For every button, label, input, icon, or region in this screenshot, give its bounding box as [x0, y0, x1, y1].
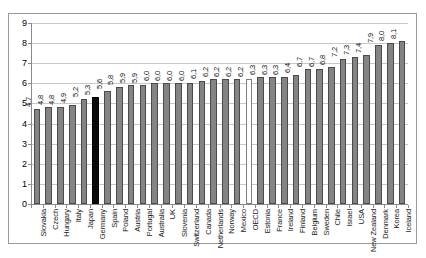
x-tick-label: Poland — [122, 209, 130, 232]
x-tick-mark — [149, 205, 150, 208]
bar[interactable] — [187, 83, 194, 204]
bar-slot: 6,4 — [293, 23, 300, 204]
x-label-slot: USA — [352, 209, 359, 210]
x-label-slot: Sweden — [316, 209, 323, 210]
x-label-slot: Israel — [340, 209, 347, 210]
bar-value-label: 6,2 — [225, 67, 233, 77]
x-tick-mark — [243, 205, 244, 208]
chart-frame: 0123456789 4,74,84,84,95,25,35,65,85,95,… — [8, 13, 417, 244]
y-axis: 0123456789 — [9, 14, 31, 205]
x-tick-label: Austria — [134, 209, 142, 232]
bar-value-label: 4,8 — [48, 95, 56, 105]
x-tick-label: Finland — [299, 209, 307, 233]
bar[interactable] — [210, 79, 217, 204]
bar[interactable] — [269, 77, 276, 204]
x-tick-mark — [302, 205, 303, 208]
x-tick-label: Sweden — [323, 209, 331, 236]
bar[interactable] — [57, 107, 64, 204]
x-tick-mark — [326, 205, 327, 208]
bar[interactable] — [151, 83, 158, 204]
x-label-slot: Portugal — [140, 209, 147, 210]
x-tick-label: Portugal — [146, 209, 154, 236]
bar[interactable] — [363, 55, 370, 204]
x-tick-label: New Zealand — [370, 209, 378, 252]
bar-value-label: 6,0 — [154, 71, 162, 81]
x-tick-label: Italy — [75, 209, 83, 222]
bar-slot: 8,1 — [399, 23, 406, 204]
x-tick-mark — [78, 205, 79, 208]
x-label-slot: Australia — [151, 209, 158, 210]
bar[interactable] — [399, 41, 406, 204]
bar-value-label: 7,9 — [367, 33, 375, 43]
bar[interactable] — [340, 59, 347, 204]
x-tick-mark — [31, 205, 32, 208]
bar[interactable] — [45, 107, 52, 204]
bar[interactable] — [140, 85, 147, 204]
bar[interactable] — [316, 69, 323, 204]
bar[interactable] — [104, 91, 111, 204]
bar[interactable] — [222, 79, 229, 204]
bar[interactable] — [375, 45, 382, 204]
y-tick-label: 3 — [22, 139, 27, 148]
bar[interactable] — [246, 79, 253, 204]
x-tick-mark — [290, 205, 291, 208]
bar-slot: 6,7 — [305, 23, 312, 204]
x-tick-mark — [208, 205, 209, 208]
bar-value-label: 7,4 — [355, 43, 363, 53]
bar-value-label: 6,7 — [308, 57, 316, 67]
bar-value-label: 4,8 — [37, 95, 45, 105]
y-tick-label: 7 — [22, 59, 27, 68]
bar[interactable] — [328, 67, 335, 204]
y-tick-label: 9 — [22, 19, 27, 28]
x-tick-label: Spain — [111, 209, 119, 228]
bar-slot: 6,0 — [163, 23, 170, 204]
y-tick-label: 8 — [22, 39, 27, 48]
x-tick-label: Canada — [205, 209, 213, 235]
bar-slot: 7,4 — [363, 23, 370, 204]
x-tick-label: Hungary — [63, 209, 71, 237]
bar[interactable] — [92, 97, 99, 204]
bar[interactable] — [81, 99, 88, 204]
bar[interactable] — [305, 69, 312, 204]
x-tick-label: Denmark — [382, 209, 390, 239]
x-tick-mark — [314, 205, 315, 208]
x-tick-label: Slovenia — [181, 209, 189, 237]
bar[interactable] — [234, 79, 241, 204]
bar-slot: 5,3 — [92, 23, 99, 204]
x-tick-mark — [66, 205, 67, 208]
bar[interactable] — [352, 57, 359, 204]
x-tick-mark — [278, 205, 279, 208]
x-tick-label: Netherlands — [217, 209, 225, 248]
bar-value-label: 4,9 — [60, 93, 68, 103]
bar-value-label: 5,9 — [131, 73, 139, 83]
bar[interactable] — [116, 87, 123, 204]
x-label-slot: Mexico — [234, 209, 241, 210]
bar-slot: 6,2 — [210, 23, 217, 204]
bar[interactable] — [163, 83, 170, 204]
bar-slot: 4,8 — [57, 23, 64, 204]
bar[interactable] — [387, 43, 394, 204]
bar[interactable] — [69, 105, 76, 204]
bar[interactable] — [34, 109, 41, 204]
bar[interactable] — [257, 77, 264, 204]
bar[interactable] — [293, 75, 300, 204]
x-label-slot: Germany — [92, 209, 99, 210]
x-tick-mark — [113, 205, 114, 208]
bar-value-label: 8,0 — [378, 31, 386, 41]
bar-slot: 6,3 — [257, 23, 264, 204]
x-label-slot: Italy — [69, 209, 76, 210]
bar-value-label: 6,2 — [202, 67, 210, 77]
bar[interactable] — [281, 77, 288, 204]
bar[interactable] — [199, 81, 206, 204]
bar-value-label: 5,2 — [72, 87, 80, 97]
bar-slot: 5,9 — [140, 23, 147, 204]
x-tick-mark — [231, 205, 232, 208]
x-tick-label: Japan — [87, 209, 95, 229]
bar[interactable] — [175, 83, 182, 204]
x-tick-mark — [408, 205, 409, 208]
x-label-slot: Denmark — [375, 209, 382, 210]
x-tick-label: Norway — [228, 209, 236, 234]
y-tick-label: 2 — [22, 159, 27, 168]
bar[interactable] — [128, 85, 135, 204]
x-tick-label: OECD — [252, 209, 260, 230]
